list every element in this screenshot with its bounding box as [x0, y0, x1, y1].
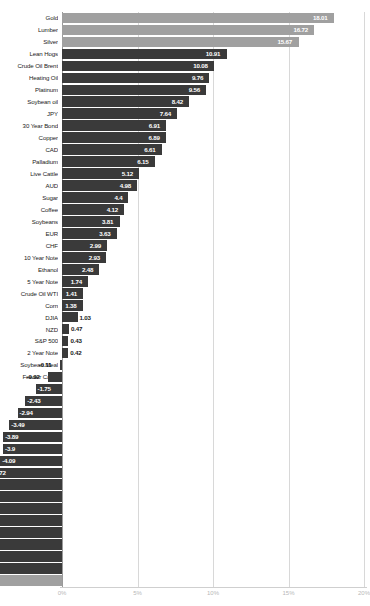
bar — [0, 575, 62, 586]
bar — [62, 49, 227, 60]
bar-row: Natural Gas-19.37 — [0, 575, 367, 587]
bar-row: Corn1.38 — [0, 299, 367, 311]
category-label: 5 Year Note — [0, 279, 58, 285]
bar-row: NZD0.47 — [0, 323, 367, 335]
bar-row: Russell 2000-3.49 — [0, 419, 367, 431]
bar-row: GBP-1.75 — [0, 383, 367, 395]
category-label: Corn — [0, 303, 58, 309]
bar-value-label: 18.01 — [313, 15, 327, 21]
bar — [0, 479, 62, 490]
bar — [62, 336, 68, 347]
bar-value-label: 7.64 — [160, 111, 171, 117]
category-label: CAD — [0, 147, 58, 153]
bar-value-label: -1.75 — [38, 386, 51, 392]
bar-row: EUR3.63 — [0, 227, 367, 239]
bar — [0, 527, 62, 538]
bar-row: Coffee4.12 — [0, 204, 367, 216]
bar-value-label: -3.9 — [5, 446, 15, 452]
x-axis: 0%5%10%15%20% — [0, 587, 367, 606]
bar-row: Gasoline RBOB-6.68 — [0, 479, 367, 491]
bar-row: Orange Juice-11.7 — [0, 539, 367, 551]
bar-row: Heating Oil9.76 — [0, 72, 367, 84]
bar-value-label: 0.47 — [71, 326, 82, 332]
bar-row: S&P 5000.43 — [0, 335, 367, 347]
bar-row: Euro Stoxx 50-7.25 — [0, 491, 367, 503]
bar-value-label: 4.98 — [120, 183, 131, 189]
category-label: S&P 500 — [0, 338, 58, 344]
bar-value-label: 8.42 — [172, 99, 183, 105]
x-tick-label: 15% — [282, 590, 294, 596]
category-label: Heating Oil — [0, 75, 58, 81]
category-label: 2 Year Note — [0, 350, 58, 356]
bar-value-label: 2.48 — [82, 267, 93, 273]
bar — [62, 96, 189, 107]
bar-value-label: -3.49 — [11, 422, 24, 428]
bar-row: Rough Rice-12.76 — [0, 563, 367, 575]
bar — [0, 551, 62, 562]
bar-value-label: 16.72 — [293, 27, 307, 33]
category-label: 30 Year Bond — [0, 123, 58, 129]
category-label: Platinum — [0, 87, 58, 93]
bar-value-label: -2.94 — [20, 410, 33, 416]
bar-value-label: 6.61 — [144, 147, 155, 153]
bar-value-label: 6.91 — [149, 123, 160, 129]
bar — [0, 491, 62, 502]
bar-row: Sugar4.4 — [0, 192, 367, 204]
bar-value-label: 10.91 — [206, 51, 220, 57]
bar-row: Canola-4.09 — [0, 455, 367, 467]
bar-value-label: 15.67 — [278, 39, 292, 45]
bar-value-label: 1.03 — [80, 315, 91, 321]
bar-value-label: 4.4 — [114, 195, 122, 201]
bar-row: DAX-8.19 — [0, 503, 367, 515]
bar-row: 10 Year Note2.93 — [0, 251, 367, 263]
category-label: DJIA — [0, 315, 58, 321]
bar-row: 5 Year Note1.74 — [0, 275, 367, 287]
bar — [60, 360, 62, 371]
bar — [62, 37, 299, 48]
axis-line — [60, 587, 367, 588]
bar-row: 2 Year Note0.42 — [0, 347, 367, 359]
bar-value-label: 0.42 — [70, 350, 81, 356]
bar-row: Nikkei 225-11.47 — [0, 527, 367, 539]
bar — [0, 539, 62, 550]
bar-row: JPY7.64 — [0, 108, 367, 120]
bar — [62, 324, 69, 335]
bar-value-label: 1.74 — [71, 279, 82, 285]
category-label: 10 Year Note — [0, 255, 58, 261]
bar — [62, 25, 314, 36]
category-label: Lean Hogs — [0, 51, 58, 57]
bar-row: Soybean oil8.42 — [0, 96, 367, 108]
bar-row: Crude Oil Brent10.08 — [0, 60, 367, 72]
bar-row: Soybean Meal-0.11 — [0, 359, 367, 371]
bar-value-label: 1.41 — [66, 291, 77, 297]
bar-value-label: 1.38 — [65, 303, 76, 309]
category-label: Coffee — [0, 207, 58, 213]
category-label: Sugar — [0, 195, 58, 201]
bar-value-label: 6.15 — [137, 159, 148, 165]
bar-row: AUD4.98 — [0, 180, 367, 192]
x-tick-label: 10% — [207, 590, 219, 596]
bar-value-label: 9.76 — [192, 75, 203, 81]
bar-row: Lumber16.72 — [0, 24, 367, 36]
bar-row: Copper6.89 — [0, 132, 367, 144]
category-label: Crude Oil Brent — [0, 63, 58, 69]
bar-value-label: 10.08 — [193, 63, 207, 69]
bar-row: VIX-4.72 — [0, 467, 367, 479]
bar-row: Lean Hogs10.91 — [0, 48, 367, 60]
bar — [62, 264, 99, 275]
bar-row: Palladium6.15 — [0, 156, 367, 168]
bar-value-label: 4.12 — [107, 207, 118, 213]
bar-row: Nasdaq 100-3.89 — [0, 431, 367, 443]
bar-row: Oats-12.49 — [0, 551, 367, 563]
bar-row: Cocoa-2.43 — [0, 395, 367, 407]
bar-row: CAD6.61 — [0, 144, 367, 156]
category-label: JPY — [0, 111, 58, 117]
bar-row: Live Cattle5.12 — [0, 168, 367, 180]
bar-row: CHF2.99 — [0, 239, 367, 251]
bar-value-label: 2.93 — [89, 255, 100, 261]
bar — [0, 515, 62, 526]
bar — [62, 13, 334, 24]
x-tick-label: 0% — [58, 590, 67, 596]
bar — [0, 468, 62, 479]
